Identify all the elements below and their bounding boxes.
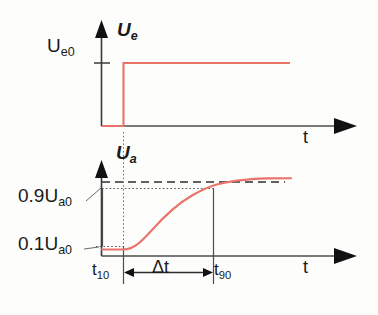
t10-label: t10 (92, 261, 109, 281)
top-y-axis-arrowhead (95, 20, 108, 38)
bottom-y-axis-label-sub: a (130, 152, 137, 166)
level-90-label-base: 0.9U (18, 185, 58, 206)
top-y-axis-label: Ue (117, 20, 138, 43)
level-90-label-sub: a0 (58, 195, 72, 209)
step-response-diagram: Ue Ue0 Ua 0.9Ua0 0.1Ua0 t10 Δt t90 t t (0, 0, 378, 315)
output-response-curve (102, 178, 291, 249)
top-y-axis-label-sub: e (131, 29, 138, 43)
t10-label-sub: 10 (97, 269, 109, 281)
delta-t-label: Δt (152, 258, 169, 276)
level-10-label-sub: a0 (58, 243, 72, 257)
level-10-label-base: 0.1U (18, 233, 58, 254)
top-level-label: Ue0 (47, 36, 75, 59)
level-10-leader-line (84, 247, 99, 249)
bottom-y-axis-label: Ua (116, 143, 137, 166)
bottom-x-axis-label: t (303, 258, 308, 276)
bottom-y-axis-arrowhead (95, 160, 108, 178)
bottom-y-axis-label-base: U (116, 142, 130, 163)
top-y-axis-label-base: U (117, 19, 131, 40)
level-10-label: 0.1Ua0 (18, 234, 72, 257)
top-level-label-sub: e0 (61, 45, 75, 59)
top-x-axis-arrowhead (334, 118, 357, 134)
top-level-label-base: U (47, 35, 61, 56)
bottom-x-axis-arrowhead (334, 248, 357, 264)
t90-label: t90 (214, 261, 231, 281)
t90-label-sub: 90 (219, 269, 231, 281)
level-90-leader-line (86, 188, 101, 201)
top-x-axis-label: t (303, 128, 308, 146)
input-step-curve (102, 63, 290, 126)
level-90-label: 0.9Ua0 (18, 186, 72, 209)
delta-t-right-arrowhead (203, 268, 213, 277)
delta-t-left-arrowhead (124, 268, 134, 277)
